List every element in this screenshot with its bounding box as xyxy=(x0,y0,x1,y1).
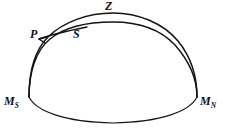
inner-meridian-arc xyxy=(29,22,197,97)
label-meridian-north-subscript: N xyxy=(211,101,216,110)
outer-meridian-arc xyxy=(29,13,197,97)
celestial-sphere-figure: Z P S MS MN xyxy=(0,0,227,136)
label-zenith: Z xyxy=(105,0,112,12)
label-meridian-north: MN xyxy=(200,95,216,110)
label-meridian-south: MS xyxy=(4,95,19,110)
figure-canvas xyxy=(0,0,227,136)
label-pole: P xyxy=(30,28,37,40)
label-star: S xyxy=(73,28,80,40)
label-meridian-south-subscript: S xyxy=(15,101,19,110)
horizon-arc xyxy=(29,97,197,123)
